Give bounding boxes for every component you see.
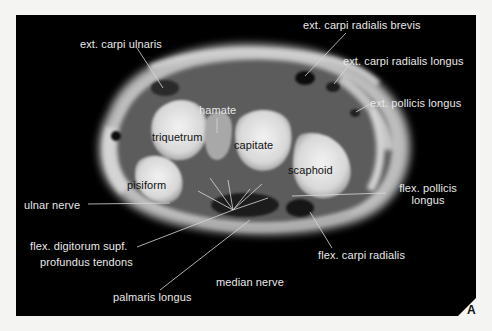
label-flex-carpi-radialis: flex. carpi radialis — [318, 249, 405, 261]
label-flex-pollicis-longus-line2: longus — [388, 194, 468, 206]
label-triquetrum: triquetrum — [152, 131, 203, 143]
label-median-nerve: median nerve — [216, 276, 284, 288]
label-ext-carpi-ulnaris: ext. carpi ulnaris — [80, 38, 162, 50]
label-ext-carpi-radialis-brevis: ext. carpi radialis brevis — [303, 19, 421, 31]
panel-letter: A — [467, 303, 476, 317]
label-ext-carpi-radialis-longus: ext. carpi radialis longus — [343, 55, 464, 67]
label-ext-pollicis-longus: ext. pollicis longus — [370, 97, 461, 109]
label-profundus-tendons: profundus tendons — [40, 256, 133, 268]
mri-wrist-figure: ext. carpi ulnaris ext. carpi radialis b… — [0, 0, 492, 331]
label-hamate: hamate — [199, 104, 236, 116]
label-flex-pollicis-longus: flex. pollicis longus — [388, 182, 468, 206]
label-scaphoid: scaphoid — [288, 164, 333, 176]
label-flex-pollicis-longus-line1: flex. pollicis — [388, 182, 468, 194]
label-capitate: capitate — [234, 139, 273, 151]
label-palmaris-longus: palmaris longus — [113, 291, 192, 303]
label-ulnar-nerve: ulnar nerve — [24, 199, 80, 211]
label-pisiform: pisiform — [127, 179, 166, 191]
label-flex-digitorum-supf: flex. digitorum supf. — [30, 240, 127, 252]
